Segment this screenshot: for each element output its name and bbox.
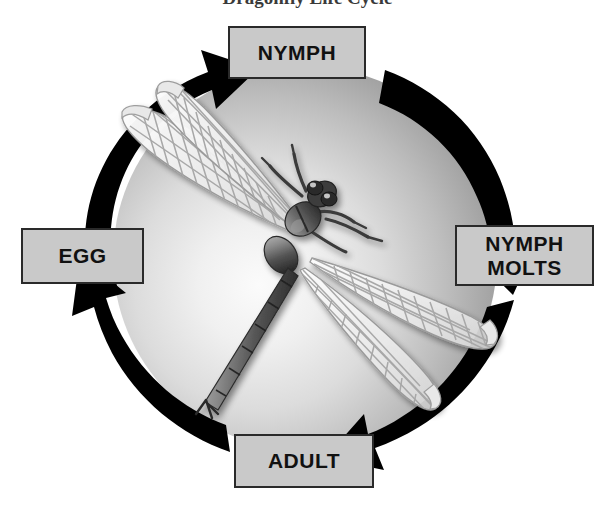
stage-box-adult[interactable]: ADULT: [234, 434, 374, 488]
dragonfly-eye-right: [321, 192, 337, 206]
dragonfly-eye-left: [307, 181, 323, 195]
stage-label-adult: ADULT: [268, 449, 340, 473]
page-title: Dragonfly Life Cycle: [0, 0, 615, 9]
stage-label-egg: EGG: [58, 244, 106, 268]
stage-label-nymph-molts-line1: NYMPH: [485, 232, 563, 256]
stage-label-nymph: NYMPH: [258, 41, 336, 65]
stage-label-nymph-molts-line2: MOLTS: [485, 256, 563, 280]
stage-box-nymph-molts[interactable]: NYMPH MOLTS: [455, 225, 594, 286]
stage-box-nymph[interactable]: NYMPH: [228, 26, 366, 79]
life-cycle-diagram: Dragonfly Life Cycle: [0, 0, 615, 510]
stage-box-egg[interactable]: EGG: [21, 228, 144, 284]
